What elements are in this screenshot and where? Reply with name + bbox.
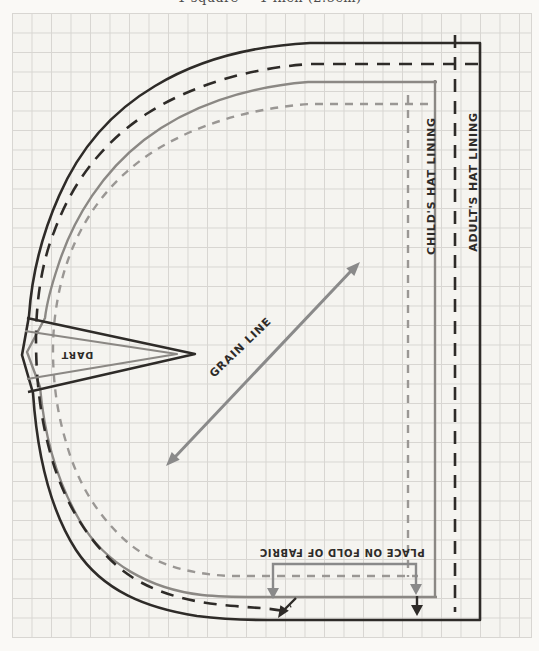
dart-outline-child xyxy=(25,331,177,379)
dart-label: DART xyxy=(61,350,94,361)
adult-lining-label: ADULT'S HAT LINING xyxy=(467,112,480,252)
place-on-fold-label: PLACE ON FOLD OF FABRIC xyxy=(259,547,424,558)
grain-line-arrow xyxy=(175,271,351,457)
fold-bracket-arrow-right-icon xyxy=(410,584,422,595)
fold-arrow-black-right-icon xyxy=(411,605,423,616)
child-pattern-outline xyxy=(27,80,437,597)
pattern-sheet: 1 square = 1 inch (2.5cm) DART GRAIN LIN… xyxy=(0,0,539,651)
child-lining-label: CHILD'S HAT LINING xyxy=(425,117,438,255)
grain-line-label: GRAIN LINE xyxy=(207,315,274,381)
hat-pattern-drawing: DART GRAIN LINE CHILD'S HAT LINING ADULT… xyxy=(0,0,539,651)
